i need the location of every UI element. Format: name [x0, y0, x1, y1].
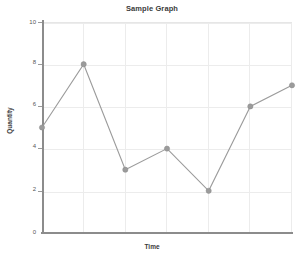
- gridline-horizontal: [42, 65, 291, 66]
- y-tick-label-10: 10: [14, 19, 36, 25]
- y-tick-mark-2: [38, 191, 42, 192]
- gridline-horizontal: [42, 149, 291, 150]
- y-tick-label-0: 0: [14, 229, 36, 235]
- y-tick-label-8: 8: [14, 59, 36, 65]
- y-axis-line: [42, 20, 44, 234]
- gridline-horizontal: [42, 107, 291, 108]
- y-tick-label-2: 2: [14, 186, 36, 192]
- gridline-vertical: [83, 23, 84, 233]
- gridline-vertical: [166, 23, 167, 233]
- gridline-vertical: [291, 23, 292, 233]
- y-tick-mark-10: [38, 22, 42, 23]
- y-axis-title: Quantity: [6, 91, 13, 151]
- chart-container: Sample Graph 10 8 6 4 2 0 Time Quantity: [0, 0, 304, 262]
- x-axis-line: [41, 232, 293, 234]
- gridline-horizontal: [42, 23, 291, 24]
- y-tick-label-4: 4: [14, 143, 36, 149]
- y-tick-mark-4: [38, 148, 42, 149]
- y-tick-mark-6: [38, 106, 42, 107]
- plot-area: [42, 22, 292, 233]
- x-axis-title: Time: [0, 243, 304, 250]
- chart-title: Sample Graph: [0, 4, 304, 13]
- y-tick-label-6: 6: [14, 101, 36, 107]
- gridline-vertical: [249, 23, 250, 233]
- gridline-vertical: [125, 23, 126, 233]
- gridline-vertical: [208, 23, 209, 233]
- y-tick-mark-8: [38, 64, 42, 65]
- gridline-horizontal: [42, 192, 291, 193]
